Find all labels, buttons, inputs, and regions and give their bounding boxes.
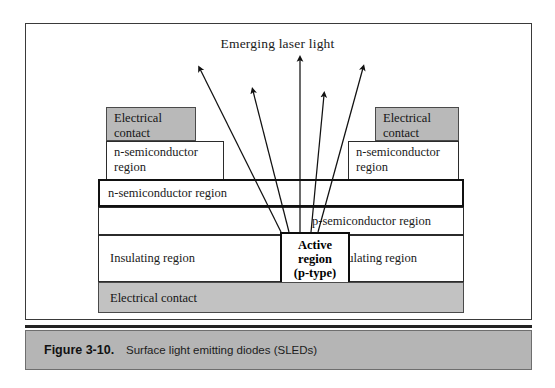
shoulder-left-label: n-semiconductor region — [114, 145, 226, 174]
figure-root: Emerging laser light Electrical contact … — [0, 0, 555, 388]
shoulder-right-label: n-semiconductor region — [356, 145, 462, 174]
band-n-semiconductor-label: n-semiconductor region — [108, 186, 227, 201]
figure-title: Emerging laser light — [0, 36, 555, 52]
caption-divider-rule — [25, 325, 532, 328]
band-p-semiconductor-label: p-semiconductor region — [312, 214, 431, 229]
contact-label-right: Electrical contact — [383, 111, 463, 141]
caption-figure-number: Figure 3-10. — [44, 343, 114, 357]
contact-label-left: Electrical contact — [114, 111, 198, 141]
active-region-box: Active region (p-type) — [280, 232, 350, 285]
active-region-label: Active region (p-type) — [294, 238, 336, 280]
figure-caption-bar: Figure 3-10. Surface light emitting diod… — [25, 330, 532, 370]
band-insulating-left-label: Insulating region — [110, 251, 195, 266]
sled-device-diagram: Electrical contact Electrical contact n-… — [98, 107, 464, 312]
caption-figure-text: Surface light emitting diodes (SLEDs) — [126, 344, 317, 356]
bottom-contact-label: Electrical contact — [110, 291, 197, 306]
